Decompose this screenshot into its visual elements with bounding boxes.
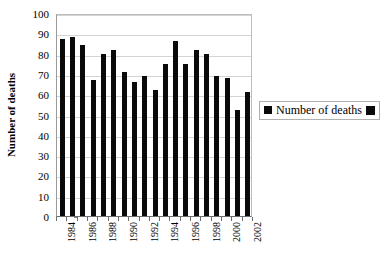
x-axis-tick-label: 1986 [86, 222, 100, 268]
x-axis-tick-label: 1990 [127, 222, 141, 268]
x-axis-tick-mark [211, 217, 212, 221]
bar [132, 82, 137, 216]
bar [183, 64, 188, 216]
x-axis-tick-mark [221, 217, 222, 221]
y-axis-tick-label: 10 [19, 191, 49, 202]
bar [163, 64, 168, 216]
y-axis-ticks: 0102030405060708090100 [22, 14, 52, 217]
x-axis-tick-label: 1996 [189, 222, 203, 268]
bar [214, 76, 219, 216]
y-axis-tick-label: 0 [19, 212, 49, 223]
x-axis-tick-mark [159, 217, 160, 221]
bar [122, 72, 127, 216]
bar [225, 78, 230, 216]
x-axis-tick-mark [128, 217, 129, 221]
plot-area [56, 14, 252, 217]
x-axis-tick-mark [87, 217, 88, 221]
bar [194, 50, 199, 216]
x-axis-tick-mark [77, 217, 78, 221]
bar [235, 110, 240, 216]
x-axis-tick-mark [200, 217, 201, 221]
y-axis-title-label: Number of deaths [5, 73, 17, 157]
y-axis-tick-label: 70 [19, 69, 49, 80]
x-axis-tick-label: 1988 [106, 222, 120, 268]
bar [60, 39, 65, 216]
bar [142, 76, 147, 216]
x-axis-tick-mark [242, 217, 243, 221]
x-axis-tick-mark [118, 217, 119, 221]
bar [173, 41, 178, 216]
bar [91, 80, 96, 216]
x-axis-tick-mark [252, 217, 253, 221]
bar [101, 54, 106, 216]
x-axis-tick-mark [190, 217, 191, 221]
bar [245, 92, 250, 216]
x-axis-tick-mark [97, 217, 98, 221]
x-axis-tick-label: 1984 [65, 222, 79, 268]
x-axis-tick-mark [108, 217, 109, 221]
x-axis-tick-label: 1994 [168, 222, 182, 268]
y-axis-tick-label: 60 [19, 90, 49, 101]
y-axis-tick-label: 50 [19, 110, 49, 121]
bar [70, 37, 75, 216]
x-axis-tick-mark [56, 217, 57, 221]
x-axis-tick-mark [139, 217, 140, 221]
x-axis-tick-mark [169, 217, 170, 221]
y-axis-tick-label: 80 [19, 49, 49, 60]
bar-series [57, 15, 251, 216]
x-axis-tick-label: 2002 [251, 222, 265, 268]
x-axis-labels: 1984198619881990199219941996199820002002 [56, 222, 266, 272]
x-axis-tick-mark [180, 217, 181, 221]
bar [80, 45, 85, 216]
y-axis-tick-label: 30 [19, 151, 49, 162]
black-square-marker-icon [264, 106, 272, 114]
bar [204, 54, 209, 216]
x-axis-tick-mark [231, 217, 232, 221]
bar [111, 50, 116, 216]
x-axis-tick-mark [149, 217, 150, 221]
y-axis-tick-label: 40 [19, 130, 49, 141]
y-axis-tick-label: 20 [19, 171, 49, 182]
bar [153, 90, 158, 216]
legend-item-label: Number of deaths [276, 104, 362, 116]
x-axis-tick-label: 1998 [210, 222, 224, 268]
chart-legend: Number of deaths [259, 101, 380, 120]
x-axis-tick-label: 2000 [230, 222, 244, 268]
x-axis-tick-label: 1992 [148, 222, 162, 268]
black-square-marker-icon [366, 106, 375, 115]
x-axis-tick-mark [66, 217, 67, 221]
y-axis-tick-label: 100 [19, 9, 49, 20]
y-axis-tick-label: 90 [19, 29, 49, 40]
bar-chart: Number of deaths 0102030405060708090100 … [0, 0, 390, 275]
